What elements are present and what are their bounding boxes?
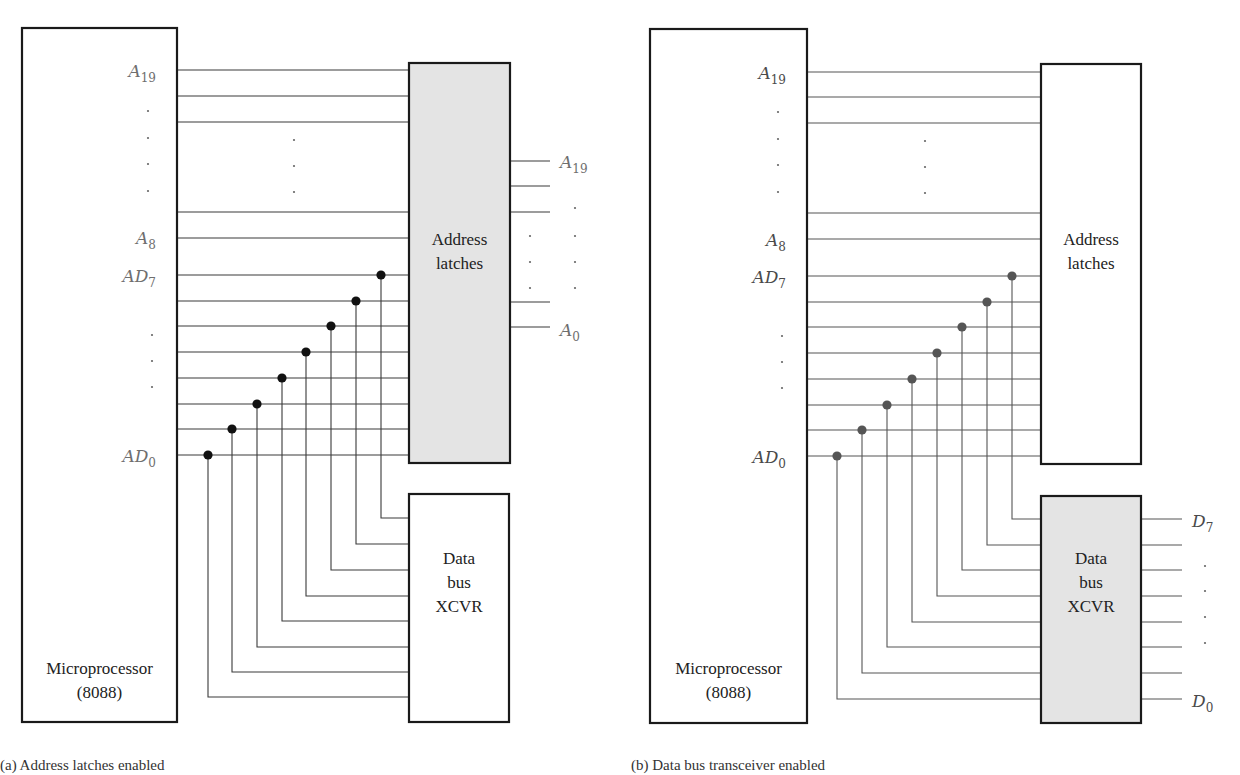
svg-text:latches: latches: [1067, 254, 1114, 273]
output-label-d0: D0: [1191, 691, 1213, 715]
svg-text:latches: latches: [436, 254, 483, 273]
svg-text:Address: Address: [432, 230, 488, 249]
address-lines-ellipsis: [924, 140, 926, 194]
svg-text:Address: Address: [1063, 230, 1119, 249]
panel-data-bus-transceiver-enabled: Microprocessor(8088)AddresslatchesDatabu…: [631, 29, 1213, 774]
svg-text:XCVR: XCVR: [1067, 597, 1115, 616]
svg-text:(8088): (8088): [706, 683, 751, 702]
output-label-d7: D7: [1191, 511, 1213, 535]
svg-text:Data: Data: [1075, 549, 1108, 568]
panel-caption: (b) Data bus transceiver enabled: [631, 757, 826, 774]
bus-wires: [177, 70, 409, 697]
multiplexed-bus-diagram: Microprocessor(8088)AddresslatchesDatabu…: [0, 0, 1240, 775]
data-output-ellipsis: [1204, 565, 1206, 644]
microprocessor-block: [650, 29, 807, 723]
address-lines-ellipsis: [293, 139, 295, 193]
output-label-a0: A0: [558, 320, 580, 344]
panel-caption: (a) Address latches enabled: [0, 757, 165, 774]
svg-text:bus: bus: [1079, 573, 1103, 592]
address-output-inner-ellipsis: [529, 235, 531, 289]
junction-dots: [203, 270, 385, 459]
bus-wires: [807, 72, 1041, 699]
svg-text:bus: bus: [447, 573, 471, 592]
microprocessor-block: [22, 28, 177, 722]
address-output-ellipsis: [574, 207, 576, 289]
panel-address-latches-enabled: Microprocessor(8088)AddresslatchesDatabu…: [0, 28, 588, 774]
address-output-lines: [510, 161, 550, 327]
svg-text:XCVR: XCVR: [435, 597, 483, 616]
svg-text:Data: Data: [443, 549, 476, 568]
junction-dots: [832, 271, 1016, 460]
output-label-a19: A19: [558, 152, 588, 176]
data-output-lines: [1141, 519, 1182, 699]
svg-text:Microprocessor: Microprocessor: [46, 659, 153, 678]
svg-text:Microprocessor: Microprocessor: [675, 659, 782, 678]
svg-text:(8088): (8088): [77, 683, 122, 702]
